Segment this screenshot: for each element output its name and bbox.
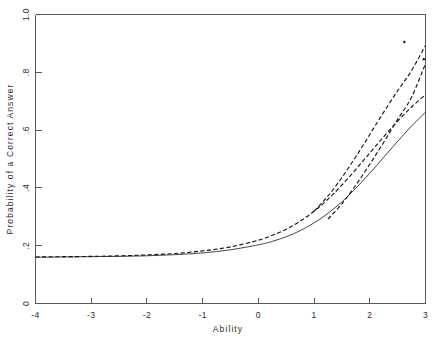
x-axis-ticks <box>36 298 426 304</box>
y-ticklabel-0: 0 <box>21 301 31 306</box>
x-ticklabel-1: 1 <box>311 310 316 320</box>
y-ticklabel-1.0: 1.0 <box>21 8 31 21</box>
plot-frame <box>36 15 426 304</box>
upper-dotted-extension-curve <box>314 45 425 211</box>
x-ticklabel--3: -3 <box>87 310 95 320</box>
lower-dotted-extension-curve <box>328 64 426 219</box>
y-ticklabel-0.4: .4 <box>21 184 31 192</box>
x-ticklabel-0: 0 <box>256 310 261 320</box>
x-axis-ticklabels: -4 -3 -2 -1 0 1 2 3 <box>31 310 428 320</box>
x-ticklabel-3: 3 <box>423 310 428 320</box>
y-ticklabel-0.2: .2 <box>21 242 31 250</box>
chart-figure: 1.0 .8 .6 .4 .2 0 -4 -3 -2 -1 0 1 2 <box>0 0 441 341</box>
y-axis-title: Probability of a Correct Answer <box>5 84 15 235</box>
solid-item-curve <box>36 112 426 257</box>
y-axis-ticks <box>36 15 42 304</box>
y-ticklabel-0.6: .6 <box>21 126 31 134</box>
stray-point-right <box>423 58 425 60</box>
stray-points-group <box>403 41 425 61</box>
x-ticklabel--1: -1 <box>198 310 206 320</box>
x-axis-title: Ability <box>213 324 243 334</box>
x-ticklabel--4: -4 <box>31 310 39 320</box>
y-ticklabel-0.8: .8 <box>21 68 31 76</box>
x-ticklabel-2: 2 <box>367 310 372 320</box>
curves-group <box>36 41 426 258</box>
x-ticklabel--2: -2 <box>143 310 151 320</box>
chart-svg: 1.0 .8 .6 .4 .2 0 -4 -3 -2 -1 0 1 2 <box>0 0 441 341</box>
stray-point-upper <box>403 41 405 43</box>
y-axis-ticklabels: 1.0 .8 .6 .4 .2 0 <box>21 8 31 306</box>
